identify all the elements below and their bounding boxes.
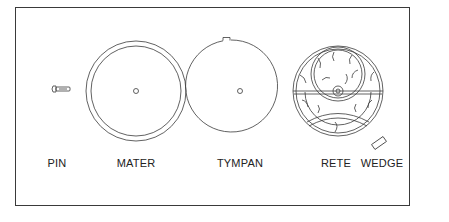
label-mater: MATER <box>117 157 156 169</box>
label-pin: PIN <box>48 157 67 169</box>
astrolabe-parts-illustration <box>0 0 449 222</box>
mater-icon <box>86 41 186 141</box>
pin-icon <box>52 86 70 92</box>
label-wedge: WEDGE <box>361 157 404 169</box>
label-rete: RETE <box>321 157 351 169</box>
rete-icon <box>293 46 383 136</box>
wedge-icon <box>372 137 387 150</box>
tympan-icon <box>186 38 278 132</box>
label-tympan: TYMPAN <box>217 157 263 169</box>
